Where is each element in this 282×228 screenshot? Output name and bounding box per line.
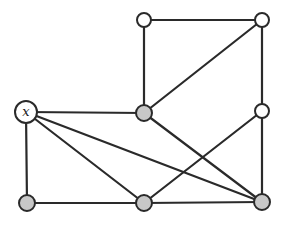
node-tl bbox=[137, 13, 151, 27]
node-bm bbox=[136, 195, 152, 211]
node-tr bbox=[255, 13, 269, 27]
edge-x-br bbox=[26, 112, 262, 202]
node-bl bbox=[19, 195, 35, 211]
node-label-x: x bbox=[22, 104, 30, 119]
edge-x-c bbox=[26, 112, 144, 113]
edge-bm-br bbox=[144, 202, 262, 203]
node-c bbox=[136, 105, 152, 121]
edge-x-bm bbox=[26, 112, 144, 203]
graph-diagram: x bbox=[0, 0, 282, 228]
graph-svg: x bbox=[0, 0, 282, 228]
node-br bbox=[254, 194, 270, 210]
node-mr bbox=[255, 104, 269, 118]
edge-x-bl bbox=[26, 112, 27, 203]
edge-tr-c bbox=[144, 20, 262, 113]
